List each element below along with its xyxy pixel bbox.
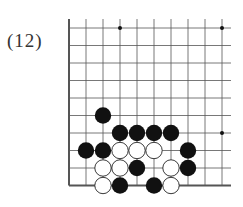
star-point-icon — [220, 131, 224, 135]
white-stone — [112, 160, 128, 176]
star-point-icon — [118, 26, 122, 30]
black-stone — [163, 125, 179, 141]
white-stone — [163, 160, 179, 176]
white-stone — [129, 142, 145, 158]
black-stone — [180, 142, 196, 158]
star-point-icon — [220, 26, 224, 30]
go-board-diagram — [0, 0, 243, 207]
black-stone — [95, 142, 111, 158]
white-stone — [112, 142, 128, 158]
white-stone — [146, 142, 162, 158]
black-stone — [78, 142, 94, 158]
white-stone — [95, 177, 111, 193]
black-stone — [112, 177, 128, 193]
white-stone — [163, 177, 179, 193]
black-stone — [112, 125, 128, 141]
black-stone — [146, 177, 162, 193]
black-stone — [95, 107, 111, 123]
black-stone — [146, 125, 162, 141]
black-stone — [129, 160, 145, 176]
white-stone — [95, 160, 111, 176]
black-stone — [180, 160, 196, 176]
black-stone — [129, 125, 145, 141]
